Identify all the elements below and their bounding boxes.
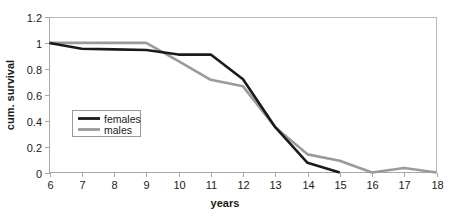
chart-canvas: 00.20.40.60.811.2 6789101112131415161718… (0, 0, 453, 221)
y-tick-label: 0.4 (27, 116, 42, 128)
y-tick-label: 0.6 (27, 90, 42, 102)
x-axis: 6789101112131415161718 (47, 173, 443, 192)
x-axis-title: years (211, 197, 240, 209)
y-axis-title: cum. survival (4, 60, 16, 130)
y-tick-label: 0.8 (27, 64, 42, 76)
y-tick-label: 1.2 (27, 12, 42, 24)
y-axis-ticks (45, 18, 50, 174)
series-line-females (50, 43, 340, 173)
x-tick-label: 10 (173, 179, 185, 191)
x-tick-label: 15 (334, 179, 346, 191)
plot-frame (49, 17, 437, 173)
x-axis-ticks (51, 173, 438, 178)
y-axis: 00.20.40.60.811.2 (27, 12, 50, 180)
data-series-group (50, 43, 437, 173)
x-tick-label: 18 (431, 179, 443, 191)
chart-legend: femalesmales (73, 111, 141, 137)
x-tick-label: 14 (302, 179, 314, 191)
y-tick-label: 0 (36, 168, 42, 180)
x-tick-label: 16 (366, 179, 378, 191)
series-line-males (50, 43, 437, 173)
x-tick-label: 13 (269, 179, 281, 191)
x-tick-label: 17 (398, 179, 410, 191)
x-tick-label: 9 (143, 179, 149, 191)
x-axis-tick-labels: 6789101112131415161718 (47, 179, 443, 191)
x-tick-label: 8 (111, 179, 117, 191)
legend-label-males: males (104, 124, 132, 136)
y-axis-tick-labels: 00.20.40.60.811.2 (27, 12, 42, 180)
y-tick-label: 0.2 (27, 142, 42, 154)
x-tick-label: 6 (47, 179, 53, 191)
survival-curve-chart: 00.20.40.60.811.2 6789101112131415161718… (0, 0, 453, 221)
x-tick-label: 11 (206, 179, 217, 191)
x-tick-label: 7 (79, 179, 85, 191)
y-tick-label: 1 (36, 38, 42, 50)
x-tick-label: 12 (237, 179, 249, 191)
